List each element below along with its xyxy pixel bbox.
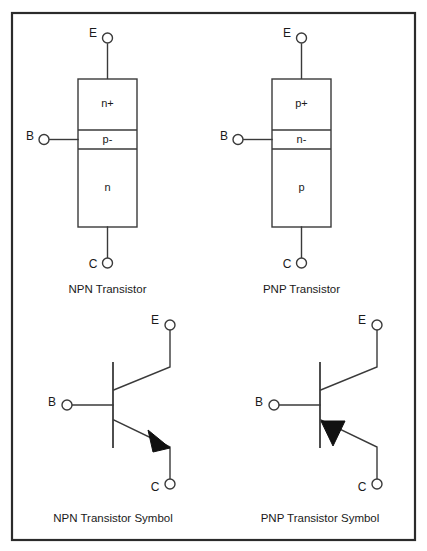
figure-border: [12, 13, 415, 540]
npn-base-terminal-dot: [39, 135, 49, 145]
pnp-collector-region-label: p: [298, 181, 304, 193]
pnp-emitter-terminal-dot: [297, 33, 307, 43]
pnp-collector-terminal-dot: [297, 258, 307, 268]
npn-base-label: B: [26, 129, 34, 143]
pnp-symbol-base-terminal-dot: [269, 400, 279, 410]
npn-collector-terminal-dot: [103, 258, 113, 268]
pnp-collector-label: C: [283, 257, 292, 271]
transistor-figure: E n+ p- n B C NPN Transistor E: [0, 0, 427, 551]
npn-collector-label: C: [89, 257, 98, 271]
npn-symbol-base-terminal-dot: [62, 400, 72, 410]
npn-emitter-label: E: [89, 26, 97, 40]
npn-emitter-region-label: n+: [101, 97, 114, 109]
figure-canvas: E n+ p- n B C NPN Transistor E: [0, 0, 427, 551]
pnp-structure-caption: PNP Transistor: [263, 283, 340, 295]
npn-structure-caption: NPN Transistor: [69, 283, 147, 295]
npn-symbol-base-label: B: [48, 395, 56, 409]
npn-symbol-emitter-terminal-dot: [165, 320, 175, 330]
pnp-base-region-label: n-: [297, 133, 307, 145]
npn-symbol-collector-label: C: [151, 480, 160, 494]
pnp-symbol-emitter-terminal-dot: [372, 320, 382, 330]
pnp-symbol-collector-terminal-dot: [372, 479, 382, 489]
pnp-base-label: B: [220, 129, 228, 143]
pnp-symbol-emitter-label: E: [358, 313, 366, 327]
npn-symbol-collector-terminal-dot: [165, 479, 175, 489]
npn-collector-region-label: n: [104, 181, 110, 193]
pnp-symbol-base-label: B: [255, 395, 263, 409]
pnp-symbol-collector-label: C: [358, 480, 367, 494]
pnp-emitter-label: E: [283, 26, 291, 40]
pnp-base-terminal-dot: [233, 135, 243, 145]
npn-symbol-emitter-label: E: [151, 313, 159, 327]
npn-base-region-label: p-: [103, 133, 113, 145]
npn-emitter-terminal-dot: [103, 33, 113, 43]
pnp-emitter-region-label: p+: [295, 97, 308, 109]
pnp-symbol-caption: PNP Transistor Symbol: [261, 512, 380, 524]
npn-symbol-caption: NPN Transistor Symbol: [53, 512, 173, 524]
